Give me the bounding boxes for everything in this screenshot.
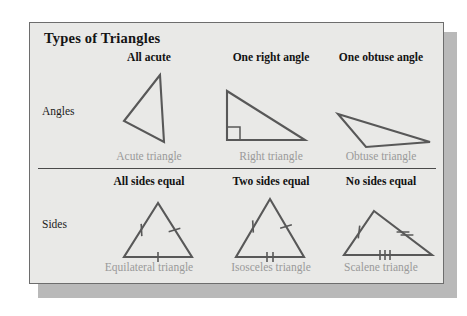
heading-all-sides-equal: All sides equal [90, 175, 208, 187]
heading-one-obtuse-angle: One obtuse angle [322, 51, 440, 63]
row-label-angles: Angles [42, 105, 75, 117]
heading-no-sides-equal: No sides equal [322, 175, 440, 187]
row-divider [38, 168, 436, 169]
figure-isosceles-triangle [218, 189, 322, 269]
caption-acute-triangle: Acute triangle [90, 150, 208, 162]
heading-one-right-angle: One right angle [212, 51, 330, 63]
tick-mark [280, 220, 292, 232]
figure-equilateral-triangle [108, 193, 208, 269]
figure-obtuse-triangle [326, 69, 438, 151]
figure-right-triangle [213, 69, 323, 151]
types-of-triangles-panel: Types of Triangles Angles All acute One … [29, 22, 444, 284]
heading-all-acute: All acute [90, 51, 208, 63]
caption-scalene-triangle: Scalene triangle [322, 261, 440, 273]
right-angle-square-icon [227, 127, 240, 140]
page-title: Types of Triangles [44, 30, 160, 47]
figure-acute-triangle [108, 69, 208, 151]
row-label-sides: Sides [42, 218, 67, 230]
caption-obtuse-triangle: Obtuse triangle [322, 150, 440, 162]
caption-isosceles-triangle: Isosceles triangle [212, 261, 330, 273]
triangle-types-diagram: Types of Triangles Angles All acute One … [0, 0, 467, 316]
caption-right-triangle: Right triangle [212, 150, 330, 162]
heading-two-sides-equal: Two sides equal [212, 175, 330, 187]
figure-scalene-triangle [326, 199, 442, 269]
caption-equilateral-triangle: Equilateral triangle [90, 261, 208, 273]
